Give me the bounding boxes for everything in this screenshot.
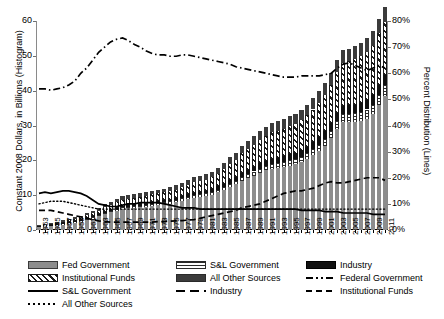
legend-row: All Other Sources [28,297,440,310]
legend-swatch-icon [28,274,58,282]
legend-label: Fed Government [62,259,130,271]
legend-swatch-icon [28,287,58,295]
legend-label: S&L Government [62,285,131,297]
y-axis-right-tick-mark [388,126,391,127]
y-axis-right-tick-mark [388,21,391,22]
x-axis-tick-mark [176,230,177,233]
x-axis-tick-mark [164,230,165,233]
legend-swatch-icon [28,300,58,308]
x-axis-tick-label: 1967 [126,217,134,235]
legend-label: Institutional Funds [340,285,413,297]
y-axis-right-tick-mark [388,99,391,100]
legend-swatch-icon [306,274,336,282]
legend-swatch-icon [176,274,206,282]
x-axis-tick-label: 2003 [340,217,348,235]
x-axis-tick-mark [69,230,70,233]
x-axis-tick-mark [260,230,261,233]
x-axis-tick-mark [319,230,320,233]
x-axis-tick-mark [355,230,356,233]
x-axis-tick-label: 1953 [42,217,50,235]
x-axis-tick-label: 1989 [257,217,265,235]
x-axis-tick-label: 1973 [161,217,169,235]
y-axis-right-tick-mark [388,204,391,205]
legend-row: Institutional FundsAll Other SourcesFede… [28,271,440,284]
legend-label: Institutional Funds [62,272,135,284]
x-axis-tick-label: 1975 [173,217,181,235]
x-axis-tick-label: 2007 [364,217,372,235]
x-axis-tick-label: 1985 [233,217,241,235]
x-axis-tick-mark [343,230,344,233]
y-axis-left-tick-label: 0 [27,225,32,234]
x-axis-tick-label: 1959 [78,217,86,235]
y-axis-right-tick-label: 80% [392,16,410,25]
x-axis-tick-mark [218,230,219,233]
x-axis-tick-mark [307,230,308,233]
x-axis-tick-mark [331,230,332,233]
legend-label: S&L Government [210,259,279,271]
x-axis-tick-mark [272,230,273,233]
x-axis-tick-mark [194,230,195,233]
x-axis-tick-label: 1981 [209,217,217,235]
legend-item: S&L Government [28,284,176,297]
x-axis-tick-mark [278,230,279,233]
x-axis-tick-mark [379,230,380,233]
plot-area: 0102030405060 0%10%20%30%40%50%60%70%80%… [36,21,388,230]
line-series [39,201,385,209]
x-axis-tick-mark [111,230,112,233]
y-axis-left-tick-label: 60 [22,16,32,25]
x-axis-tick-mark [87,230,88,233]
y-axis-left-tick-label: 20 [22,155,32,164]
legend-item: Industry [306,258,372,271]
y-axis-right-tick-mark [388,152,391,153]
x-axis-tick-mark [182,230,183,233]
y-axis-right-tick-label: 30% [392,147,410,156]
x-axis-tick-mark [51,230,52,233]
x-axis-tick-mark [212,230,213,233]
x-axis-tick-mark [290,230,291,233]
legend-item: Institutional Funds [28,271,176,284]
x-axis-tick-mark [75,230,76,233]
x-axis-tick-label: 1957 [66,217,74,235]
y-axis-left-tick-label: 10 [22,190,32,199]
bar-segment [383,7,387,22]
x-axis-tick-mark [206,230,207,233]
legend-row: S&L GovernmentIndustryInstitutional Fund… [28,284,440,297]
y-axis-right-tick-label: 10% [392,199,410,208]
y-axis-left-tick-label: 50 [22,51,32,60]
legend-swatch-icon [306,287,336,295]
x-axis-tick-mark [230,230,231,233]
legend-item: Federal Government [306,271,423,284]
line-series [39,191,385,215]
x-axis-tick-label: 1991 [269,217,277,235]
x-axis-tick-label: 2011 [388,218,396,235]
y-axis-right-title: Percent Distribution (Lines) [422,6,432,236]
x-axis-tick-label: 1979 [197,217,205,235]
x-axis-tick-label: 2001 [328,217,336,235]
x-axis-tick-mark [81,230,82,233]
legend-item: S&L Government [176,258,306,271]
x-axis-tick-mark [93,230,94,233]
x-axis-tick-mark [242,230,243,233]
x-axis-tick-mark [45,230,46,233]
x-axis-tick-mark [63,230,64,233]
x-axis-tick-mark [254,230,255,233]
y-axis-right-tick-mark [388,178,391,179]
y-axis-right-tick-mark [388,73,391,74]
line-series [39,178,385,222]
legend-swatch-icon [306,261,336,269]
y-axis-left-tick-mark [33,230,36,231]
chart-container: Constant 2008 Dollars, in Billions (Hist… [0,0,444,319]
x-axis-tick-mark [224,230,225,233]
x-axis-tick-mark [385,230,386,233]
y-axis-right-tick-label: 60% [392,68,410,77]
x-axis-tick-mark [105,230,106,233]
x-axis-tick-mark [373,230,374,233]
line-series-group [36,21,388,230]
x-axis-tick-mark [39,230,40,233]
chart-legend: Fed GovernmentS&L GovernmentIndustryInst… [28,258,440,310]
x-axis-tick-mark [188,230,189,233]
x-axis-tick-mark [296,230,297,233]
x-axis-tick-mark [128,230,129,233]
x-axis-tick-mark [248,230,249,233]
x-axis-tick-label: 1997 [304,217,312,235]
